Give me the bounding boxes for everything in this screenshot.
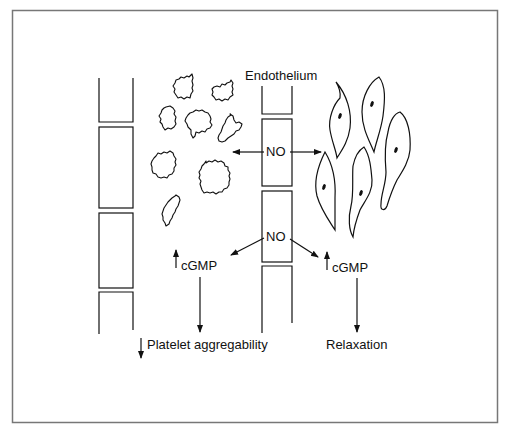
- endothelium-label: Endothelium: [245, 69, 317, 83]
- smooth-muscle-cell: [316, 152, 335, 230]
- endothelium-wall: [262, 86, 292, 333]
- platelet: [162, 195, 180, 226]
- endothelial-cell: [262, 191, 292, 262]
- platelets: [151, 74, 242, 226]
- cell-nucleus: [321, 184, 326, 191]
- wall-segment: [99, 127, 133, 208]
- cell-nucleus: [358, 190, 363, 197]
- endothelial-cell: [262, 86, 292, 114]
- platelet: [173, 74, 193, 99]
- smooth-muscle-cells: [316, 77, 410, 237]
- wall-segment: [99, 292, 133, 334]
- cell-nucleus: [369, 101, 374, 108]
- no-label-top: NO: [265, 145, 287, 159]
- cgmp-label-right: cGMP: [332, 261, 368, 275]
- left-vessel-wall: [99, 78, 133, 334]
- diagram-canvas: [0, 0, 505, 430]
- smooth-muscle-cell: [381, 112, 410, 210]
- cell-nucleus: [393, 147, 398, 154]
- platelet: [151, 151, 176, 178]
- relaxation-label: Relaxation: [326, 338, 387, 352]
- wall-segment: [99, 213, 133, 288]
- smooth-muscle-cell: [330, 82, 351, 158]
- smooth-muscle-nuclei: [321, 101, 398, 197]
- wall-segment: [99, 78, 133, 122]
- cell-nucleus: [337, 113, 342, 120]
- platelet-aggregability-label: Platelet aggregability: [147, 338, 268, 352]
- endothelial-cell: [262, 266, 292, 333]
- no-to-muscle-cgmp-arrow: [290, 239, 318, 257]
- platelet: [199, 160, 230, 194]
- cgmp-label-left: cGMP: [181, 259, 217, 273]
- no-label-bottom: NO: [265, 230, 287, 244]
- no-to-platelet-cgmp-arrow: [231, 238, 264, 255]
- platelet: [212, 80, 233, 101]
- platelet: [159, 106, 176, 130]
- smooth-muscle-cell: [362, 77, 384, 152]
- platelet: [185, 110, 212, 138]
- no-cgmp-pathway-diagram: Endothelium NO NO cGMP cGMP Platelet agg…: [0, 0, 505, 430]
- platelet: [218, 114, 242, 142]
